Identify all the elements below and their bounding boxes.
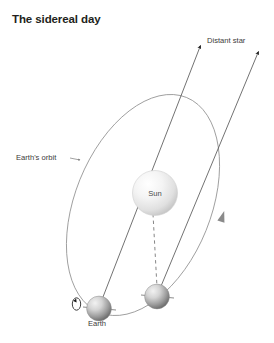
earth-orbit-label-group: Earth's orbit [16,153,80,162]
earth-orbit-label: Earth's orbit [16,153,57,162]
distant-star-rays [96,46,259,316]
earth-label: Earth [88,319,106,328]
figure-canvas: The sidereal day [0,0,274,343]
earth-body-position-2 [141,284,174,309]
page-title: The sidereal day [12,13,101,25]
distant-star-label: Distant star [207,36,246,45]
sun-earth-dashed-line [153,214,157,287]
sun-body: Sun [133,171,178,216]
earth-body-position-1 [83,296,116,321]
sun-label: Sun [148,189,162,198]
orbit-direction-arrow-icon [217,210,227,223]
sidereal-day-diagram: Sun Earth's orbit Distant star Earth [0,0,274,343]
earth-rotation-arrow-icon [72,298,80,310]
